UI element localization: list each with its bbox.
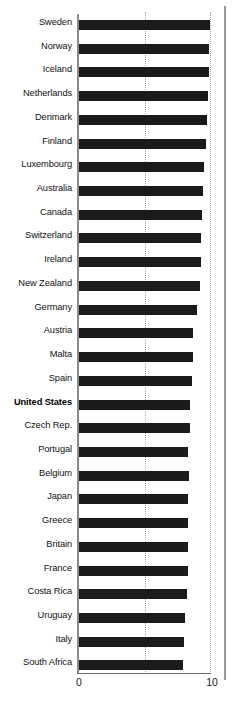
bar-row: New Zealand bbox=[0, 275, 224, 299]
bar-row: Iceland bbox=[0, 61, 224, 85]
bar-row: Costa Rica bbox=[0, 583, 224, 607]
bar-row-label: Ireland bbox=[0, 254, 72, 265]
bar bbox=[79, 660, 183, 670]
bar-row: Australia bbox=[0, 180, 224, 204]
bar-row: South Africa bbox=[0, 654, 224, 678]
bar-row: Greece bbox=[0, 512, 224, 536]
bar-row-label: Uruguay bbox=[0, 610, 72, 621]
bar-row-label: United States bbox=[0, 397, 72, 408]
bar bbox=[79, 566, 188, 576]
bar-row-label: Netherlands bbox=[0, 88, 72, 99]
bar-row-label: Switzerland bbox=[0, 230, 72, 241]
bar-row: Finland bbox=[0, 133, 224, 157]
bar-row: Netherlands bbox=[0, 85, 224, 109]
bar-row: Italy bbox=[0, 631, 224, 655]
bar-row: Denmark bbox=[0, 109, 224, 133]
bar-row-label: Canada bbox=[0, 207, 72, 218]
bar-row: Uruguay bbox=[0, 607, 224, 631]
x-tick-10: 10 bbox=[206, 676, 218, 689]
bar-row-label: Australia bbox=[0, 183, 72, 194]
bar bbox=[79, 423, 190, 433]
bar-row-label: Luxembourg bbox=[0, 159, 72, 170]
bar-row: Britain bbox=[0, 536, 224, 560]
bar-row: Luxembourg bbox=[0, 156, 224, 180]
bar bbox=[79, 542, 188, 552]
bar-row-label: Sweden bbox=[0, 17, 72, 28]
bar bbox=[79, 637, 184, 647]
bar-row: Spain bbox=[0, 370, 224, 394]
bar bbox=[79, 328, 193, 338]
right-border-rule bbox=[224, 6, 226, 680]
bar bbox=[79, 20, 210, 30]
bar-row-label: Britain bbox=[0, 539, 72, 550]
bar-row: Belgium bbox=[0, 465, 224, 489]
bar bbox=[79, 186, 203, 196]
bar-row-label: Czech Rep. bbox=[0, 420, 72, 431]
bar-row-label: Japan bbox=[0, 491, 72, 502]
bar-row: Czech Rep. bbox=[0, 417, 224, 441]
bar bbox=[79, 115, 207, 125]
bar-row-label: Finland bbox=[0, 136, 72, 147]
bar bbox=[79, 210, 202, 220]
bar-row-label: Denmark bbox=[0, 112, 72, 123]
bar-row-label: Costa Rica bbox=[0, 586, 72, 597]
bar bbox=[79, 613, 185, 623]
bar bbox=[79, 494, 188, 504]
bar-row-label: Iceland bbox=[0, 64, 72, 75]
bar-row-label: Germany bbox=[0, 302, 72, 313]
bar bbox=[79, 233, 201, 243]
bar-row-label: South Africa bbox=[0, 657, 72, 668]
bar-row-label: Greece bbox=[0, 515, 72, 526]
bar-row-label: France bbox=[0, 563, 72, 574]
chart-root: SwedenNorwayIcelandNetherlandsDenmarkFin… bbox=[0, 0, 238, 715]
bar-row: Portugal bbox=[0, 441, 224, 465]
bar bbox=[79, 162, 204, 172]
plot-area: SwedenNorwayIcelandNetherlandsDenmarkFin… bbox=[0, 0, 224, 686]
bar-row: Norway bbox=[0, 38, 224, 62]
x-axis-line bbox=[77, 673, 211, 674]
bar bbox=[79, 447, 188, 457]
bar-row-label: Belgium bbox=[0, 468, 72, 479]
cropped-footer-text bbox=[10, 702, 210, 711]
bar-row: Ireland bbox=[0, 251, 224, 275]
bar-row: United States bbox=[0, 394, 224, 418]
bar-row-label: Portugal bbox=[0, 444, 72, 455]
x-axis-labels: 0 10 bbox=[0, 676, 224, 694]
bar bbox=[79, 139, 206, 149]
bar bbox=[79, 352, 193, 362]
bar-row: Canada bbox=[0, 204, 224, 228]
bar bbox=[79, 376, 192, 386]
bar-row-label: Norway bbox=[0, 41, 72, 52]
bar-row: France bbox=[0, 560, 224, 584]
bar bbox=[79, 281, 200, 291]
bar-row: Austria bbox=[0, 322, 224, 346]
bar-row-label: Italy bbox=[0, 634, 72, 645]
bar bbox=[79, 305, 197, 315]
bar-row-label: New Zealand bbox=[0, 278, 72, 289]
x-tick-0: 0 bbox=[76, 676, 82, 689]
bar-row-label: Malta bbox=[0, 349, 72, 360]
bar-row: Switzerland bbox=[0, 227, 224, 251]
bar bbox=[79, 518, 188, 528]
bar bbox=[79, 91, 208, 101]
bar-row: Germany bbox=[0, 299, 224, 323]
bar bbox=[79, 589, 187, 599]
bar bbox=[79, 67, 209, 77]
bar bbox=[79, 400, 190, 410]
bar-row-label: Austria bbox=[0, 325, 72, 336]
bar bbox=[79, 257, 201, 267]
bar-row-label: Spain bbox=[0, 373, 72, 384]
bar bbox=[79, 471, 189, 481]
bar bbox=[79, 44, 209, 54]
bar-row: Malta bbox=[0, 346, 224, 370]
bar-row: Sweden bbox=[0, 14, 224, 38]
bar-row: Japan bbox=[0, 488, 224, 512]
